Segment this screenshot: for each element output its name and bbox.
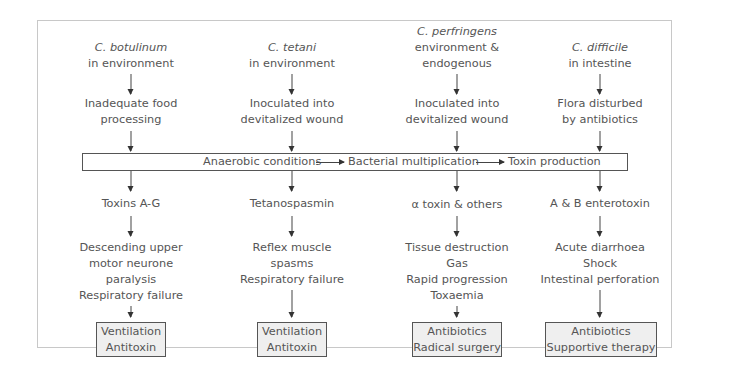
arrow-down-icon xyxy=(131,216,132,236)
effect-botulinum: Descending upper xyxy=(79,240,182,256)
step-difficile-line1: Flora disturbed xyxy=(557,96,642,112)
step-botulinum-line2: processing xyxy=(101,112,162,128)
treatment-box-tetani: Ventilation Antitoxin xyxy=(257,322,327,357)
source-perfringens-line1: environment & xyxy=(415,40,499,56)
treatment-line: Antibiotics xyxy=(413,324,501,340)
source-tetani: in environment xyxy=(249,56,335,72)
effect-difficile: Acute diarrhoea xyxy=(555,240,645,256)
effect-perfringens: Gas xyxy=(446,256,468,272)
stage-anaerobic: Anaerobic conditions xyxy=(203,154,321,170)
arrow-down-icon xyxy=(457,171,458,191)
organism-name: C. perfringens xyxy=(417,25,497,38)
effect-tetani: Respiratory failure xyxy=(240,272,344,288)
arrow-down-icon xyxy=(457,306,458,317)
arrow-down-icon xyxy=(457,74,458,94)
arrow-down-icon xyxy=(292,74,293,94)
toxin-difficile: A & B enterotoxin xyxy=(550,196,650,212)
treatment-box-difficile: Antibiotics Supportive therapy xyxy=(545,322,657,357)
effect-perfringens: Rapid progression xyxy=(406,272,508,288)
stage-toxin-production: Toxin production xyxy=(508,154,601,170)
effect-difficile: Shock xyxy=(583,256,617,272)
effect-tetani: Reflex muscle xyxy=(253,240,332,256)
organism-name: C. difficile xyxy=(572,41,628,54)
arrow-down-icon xyxy=(600,171,601,191)
organism-name: C. botulinum xyxy=(95,41,167,54)
effect-perfringens: Tissue destruction xyxy=(405,240,508,256)
treatment-line: Supportive therapy xyxy=(546,340,656,356)
effect-botulinum: motor neurone xyxy=(89,256,173,272)
treatment-box-perfringens: Antibiotics Radical surgery xyxy=(412,322,502,357)
organism-name: C. tetani xyxy=(268,41,316,54)
treatment-box-botulinum: Ventilation Antitoxin xyxy=(96,322,166,357)
effect-difficile: Intestinal perforation xyxy=(541,272,660,288)
organism-botulinum: C. botulinum xyxy=(95,40,167,56)
step-tetani-line2: devitalized wound xyxy=(241,112,344,128)
source-difficile: in intestine xyxy=(568,56,631,72)
arrow-down-icon xyxy=(292,131,293,151)
arrow-down-icon xyxy=(292,290,293,317)
arrow-down-icon xyxy=(131,131,132,151)
arrow-down-icon xyxy=(457,216,458,236)
treatment-line: Ventilation xyxy=(258,324,326,340)
arrow-right-icon xyxy=(476,162,504,163)
step-difficile-line2: by antibiotics xyxy=(562,112,638,128)
arrow-down-icon xyxy=(600,216,601,236)
treatment-line: Antitoxin xyxy=(97,340,165,356)
organism-perfringens: C. perfringens xyxy=(417,24,497,40)
step-botulinum-line1: Inadequate food xyxy=(85,96,178,112)
toxin-botulinum: Toxins A-G xyxy=(102,196,161,212)
arrow-down-icon xyxy=(292,216,293,236)
effect-botulinum: paralysis xyxy=(106,272,156,288)
arrow-down-icon xyxy=(292,171,293,191)
arrow-down-icon xyxy=(600,290,601,317)
source-botulinum: in environment xyxy=(88,56,174,72)
step-tetani-line1: Inoculated into xyxy=(250,96,335,112)
toxin-perfringens: α toxin & others xyxy=(412,197,503,213)
step-perfringens-line1: Inoculated into xyxy=(415,96,500,112)
organism-tetani: C. tetani xyxy=(268,40,316,56)
treatment-line: Antibiotics xyxy=(546,324,656,340)
step-perfringens-line2: devitalized wound xyxy=(406,112,509,128)
toxin-tetani: Tetanospasmin xyxy=(250,196,335,212)
effect-tetani: spasms xyxy=(271,256,314,272)
arrow-down-icon xyxy=(600,74,601,94)
effect-perfringens: Toxaemia xyxy=(430,288,483,304)
treatment-line: Antitoxin xyxy=(258,340,326,356)
effect-botulinum: Respiratory failure xyxy=(79,288,183,304)
stage-multiplication: Bacterial multiplication xyxy=(348,154,479,170)
source-perfringens-line2: endogenous xyxy=(422,56,491,72)
treatment-line: Radical surgery xyxy=(413,340,501,356)
arrow-down-icon xyxy=(457,131,458,151)
arrow-down-icon xyxy=(600,131,601,151)
organism-difficile: C. difficile xyxy=(572,40,628,56)
arrow-down-icon xyxy=(131,306,132,317)
treatment-line: Ventilation xyxy=(97,324,165,340)
arrow-down-icon xyxy=(131,171,132,191)
arrow-right-icon xyxy=(316,162,344,163)
arrow-down-icon xyxy=(131,74,132,94)
